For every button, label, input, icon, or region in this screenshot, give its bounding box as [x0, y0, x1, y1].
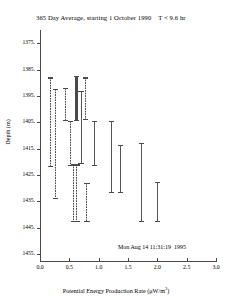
x-tick-label: 2.0 [154, 264, 161, 271]
errorbar-stem [111, 121, 112, 194]
errorbar-stem [94, 121, 95, 166]
errorbar-cap-bottom [74, 221, 79, 222]
x-tick [40, 258, 41, 262]
errorbar-cap-bottom [53, 198, 58, 199]
errorbar-cap-bottom [83, 119, 88, 120]
errorbar-stem [76, 164, 77, 222]
errorbar-cap-bottom [48, 166, 53, 167]
errorbar-cap-top [139, 143, 144, 144]
x-tick-label: 1.0 [95, 264, 102, 271]
errorbar-stem [85, 77, 86, 119]
errorbar-cap-top [84, 183, 89, 184]
errorbar-cap-bottom [139, 221, 144, 222]
y-tick: 1395. [37, 96, 41, 97]
errorbar-cap-top [74, 76, 79, 77]
y-tick-label: 1415. [22, 145, 35, 151]
y-tick: 1445. [37, 228, 41, 229]
y-axis-label: Depth (m) [4, 92, 12, 172]
x-tick [157, 258, 158, 262]
errorbar-cap-top [68, 121, 73, 122]
y-tick-label: 1435. [22, 197, 35, 203]
errorbar-cap-top [118, 145, 123, 146]
errorbar-stem [81, 91, 82, 165]
errorbar-cap-top [155, 182, 160, 183]
x-tick-label: 1.5 [124, 264, 131, 271]
chart-title: 365 Day Average, starting 1 October 1990… [36, 14, 232, 22]
y-tick: 1435. [37, 201, 41, 202]
errorbar-stem [50, 77, 51, 167]
errorbar-cap-bottom [109, 192, 114, 193]
x-tick-label: 3.0 [212, 264, 219, 271]
x-tick [99, 258, 100, 262]
x-tick [187, 258, 188, 262]
errorbar-stem [120, 145, 121, 194]
y-tick: 1385. [37, 70, 41, 71]
errorbar-cap-bottom [92, 165, 97, 166]
y-tick: 1455. [37, 254, 41, 255]
y-tick-label: 1425. [22, 171, 35, 177]
x-tick [69, 258, 70, 262]
errorbar-cap-top [78, 91, 83, 92]
errorbar-cap-bottom [155, 221, 160, 222]
errorbar-stem [65, 88, 66, 121]
plot-area: 1375.1385.1395.1405.1415.1425.1435.1445.… [40, 30, 216, 262]
y-tick: 1405. [37, 122, 41, 123]
y-tick: 1375. [37, 43, 41, 44]
errorbar-cap-bottom [118, 192, 123, 193]
errorbar-stem [141, 143, 142, 222]
errorbar-stem [73, 164, 74, 222]
x-tick-label: 0.0 [36, 264, 43, 271]
errorbar-stem [70, 121, 71, 166]
y-tick-label: 1455. [22, 250, 35, 256]
errorbar-cap-top [53, 89, 58, 90]
errorbar-cap-bottom [84, 221, 89, 222]
plot-timestamp: Mon Aug 14 11:31:19 1995 [118, 243, 186, 251]
errorbar-cap-bottom [78, 163, 83, 164]
errorbar-cap-top [109, 121, 114, 122]
y-tick-label: 1445. [22, 224, 35, 230]
y-tick-label: 1395. [22, 92, 35, 98]
errorbar-stem [86, 183, 87, 223]
errorbar-cap-top [92, 121, 97, 122]
errorbar-stem [75, 76, 77, 121]
errorbar-cap-bottom [74, 120, 79, 121]
x-axis-label-text: Potential Energy Production Rate ( [63, 287, 150, 294]
errorbar-cap-top [63, 88, 68, 89]
x-tick [128, 258, 129, 262]
y-tick-label: 1405. [22, 118, 35, 124]
x-tick [216, 258, 217, 262]
x-tick-label: 0.5 [66, 264, 73, 271]
x-axis-label-close: ) [167, 287, 169, 294]
y-tick-label: 1385. [22, 66, 35, 72]
errorbar-stem [157, 182, 158, 223]
figure-canvas: 365 Day Average, starting 1 October 1990… [0, 0, 232, 307]
y-tick-label: 1375. [22, 39, 35, 45]
y-tick: 1425. [37, 175, 41, 176]
y-tick: 1415. [37, 149, 41, 150]
x-axis-label-units: μW/m [149, 287, 165, 294]
x-tick-label: 2.5 [183, 264, 190, 271]
errorbar-cap-top [74, 164, 79, 165]
errorbar-stem [55, 89, 56, 198]
errorbar-cap-top [48, 77, 53, 78]
x-axis-label: Potential Energy Production Rate (μW/m3) [0, 285, 232, 295]
errorbar-cap-top [83, 77, 88, 78]
